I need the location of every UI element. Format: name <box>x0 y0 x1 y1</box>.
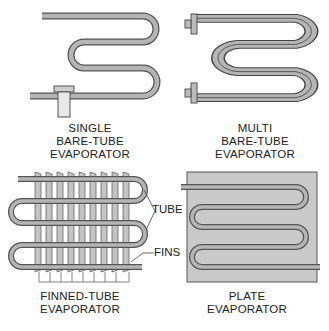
caption-line: FINNED-TUBE <box>30 290 130 303</box>
caption-line: EVAPORATOR <box>30 303 130 316</box>
caption-plate: PLATE EVAPORATOR <box>197 290 297 316</box>
callout-tube: TUBE <box>152 203 183 215</box>
finned-tube-evaporator <box>11 172 155 282</box>
caption-finned: FINNED-TUBE EVAPORATOR <box>30 290 130 316</box>
caption-line: EVAPORATOR <box>40 148 140 161</box>
caption-line: EVAPORATOR <box>197 303 297 316</box>
caption-line: SINGLE <box>40 122 140 135</box>
multi-bare-tube-evaporator <box>185 14 311 103</box>
evaporator-diagram <box>0 0 329 331</box>
callout-fins: FINS <box>154 246 180 258</box>
caption-line: EVAPORATOR <box>205 148 305 161</box>
single-bare-tube-evaporator <box>30 16 157 117</box>
caption-line: MULTI <box>205 122 305 135</box>
caption-line: BARE-TUBE <box>205 135 305 148</box>
caption-single: SINGLE BARE-TUBE EVAPORATOR <box>40 122 140 161</box>
caption-line: BARE-TUBE <box>40 135 140 148</box>
caption-multi: MULTI BARE-TUBE EVAPORATOR <box>205 122 305 161</box>
caption-line: PLATE <box>197 290 297 303</box>
plate-evaporator <box>181 172 320 282</box>
